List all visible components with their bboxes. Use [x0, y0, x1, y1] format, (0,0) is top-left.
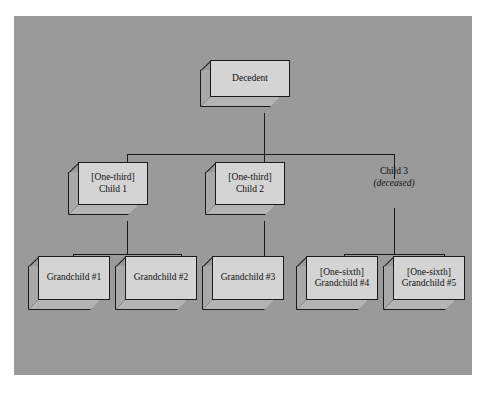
node-grandchild1[interactable]: Grandchild #1 — [38, 256, 110, 300]
node-grandchild1-bottom — [28, 300, 100, 310]
node-child3-status: (deceased) — [344, 177, 444, 189]
node-grandchild3-label: Grandchild #3 — [221, 272, 276, 283]
node-grandchild3[interactable]: Grandchild #3 — [212, 256, 284, 300]
node-child3-label: Child 3 — [344, 165, 444, 177]
node-decedent-bottom — [200, 97, 280, 107]
node-grandchild2-face: Grandchild #2 — [125, 256, 197, 300]
node-grandchild3-bottom — [202, 300, 274, 310]
node-child2-face: [One-third] Child 2 — [215, 162, 285, 205]
node-decedent-label: Decedent — [232, 73, 268, 84]
node-grandchild4-share: [One-sixth] — [320, 267, 364, 278]
connector-decedent-down — [264, 113, 265, 154]
node-grandchild1-face: Grandchild #1 — [38, 256, 110, 300]
node-grandchild4-label: Grandchild #4 — [315, 278, 370, 289]
node-child3[interactable]: Child 3 (deceased) — [344, 165, 444, 190]
node-grandchild5[interactable]: [One-sixth] Grandchild #5 — [393, 256, 465, 300]
node-child1-face: [One-third] Child 1 — [78, 162, 148, 205]
node-grandchild2-bottom — [115, 300, 187, 310]
node-decedent[interactable]: Decedent — [210, 60, 290, 97]
connector-child3-down — [394, 208, 395, 254]
node-grandchild4[interactable]: [One-sixth] Grandchild #4 — [306, 256, 378, 300]
node-grandchild5-bottom — [383, 300, 455, 310]
node-grandchild4-bottom — [296, 300, 368, 310]
node-child2-share: [One-third] — [228, 172, 271, 183]
node-decedent-face: Decedent — [210, 60, 290, 97]
node-grandchild5-face: [One-sixth] Grandchild #5 — [393, 256, 465, 300]
node-child1[interactable]: [One-third] Child 1 — [78, 162, 148, 205]
node-grandchild2[interactable]: Grandchild #2 — [125, 256, 197, 300]
connector-child1-down — [127, 221, 128, 254]
node-child2-label: Child 2 — [236, 184, 264, 195]
node-grandchild2-label: Grandchild #2 — [134, 272, 189, 283]
diagram-canvas: Decedent [One-third] Child 1 [One-third]… — [14, 16, 472, 375]
node-grandchild1-label: Grandchild #1 — [47, 272, 102, 283]
node-child1-bottom — [68, 205, 138, 215]
connector-child3-bus — [344, 254, 444, 255]
node-grandchild5-share: [One-sixth] — [407, 267, 451, 278]
node-grandchild5-label: Grandchild #5 — [402, 278, 457, 289]
node-grandchild3-face: Grandchild #3 — [212, 256, 284, 300]
node-grandchild4-face: [One-sixth] Grandchild #4 — [306, 256, 378, 300]
node-child1-share: [One-third] — [91, 172, 134, 183]
node-child1-label: Child 1 — [99, 184, 127, 195]
node-child2-bottom — [205, 205, 275, 215]
connector-children-bus — [127, 154, 395, 155]
node-child2[interactable]: [One-third] Child 2 — [215, 162, 285, 205]
connector-child1-bus — [73, 254, 181, 255]
